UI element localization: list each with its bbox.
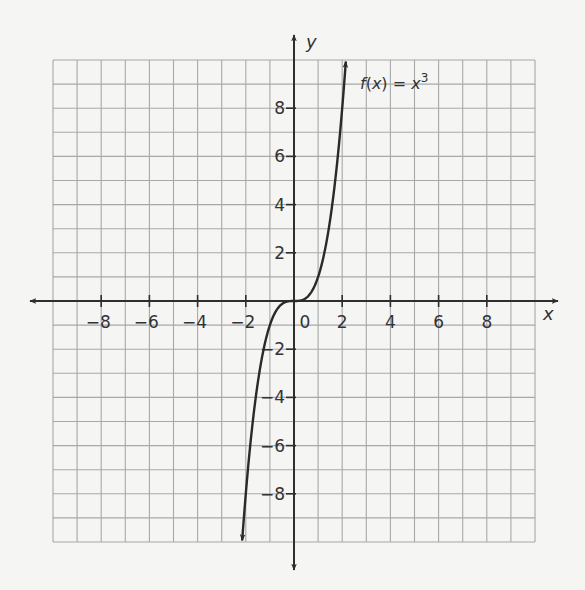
y-tick-label: 2 xyxy=(274,243,285,263)
x-axis-label: x xyxy=(542,303,554,324)
x-tick-label: 8 xyxy=(481,312,492,332)
y-tick-label: 4 xyxy=(274,195,285,215)
y-tick-label: −6 xyxy=(260,436,285,456)
x-tick-label: −2 xyxy=(230,312,255,332)
axes xyxy=(30,35,558,570)
x-tick-label: −8 xyxy=(86,312,111,332)
y-tick-label: 6 xyxy=(274,146,285,166)
cubic-function-graph: −8−6−4−202468−8−6−4−22468 yxf(x) = x3 xyxy=(0,0,585,590)
function-label: f(x) = x3 xyxy=(360,71,428,93)
x-tick-label: 0 xyxy=(300,312,311,332)
y-tick-label: 8 xyxy=(274,98,285,118)
x-tick-label: 6 xyxy=(433,312,444,332)
x-tick-label: −4 xyxy=(182,312,207,332)
x-tick-label: 4 xyxy=(385,312,396,332)
x-tick-label: −6 xyxy=(134,312,159,332)
y-axis-label: y xyxy=(305,31,317,52)
y-tick-label: −4 xyxy=(260,387,285,407)
y-tick-label: −8 xyxy=(260,484,285,504)
x-tick-label: 2 xyxy=(337,312,348,332)
